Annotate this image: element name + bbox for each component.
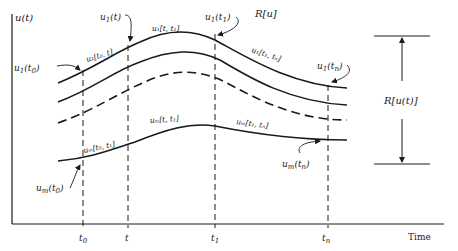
tick-label-t: t [125, 233, 129, 243]
label-u1-t1: u1(t1) [205, 12, 231, 24]
seg-label-um-t-t1: uₘ[t, t₁] [150, 114, 180, 125]
seg-label-u1-t-t1: u₁[t, t₁] [152, 24, 180, 33]
x-axis-label: Time [408, 232, 431, 242]
range-label: R[u(t)] [383, 95, 418, 106]
label-u1-t0: u1(t0) [14, 63, 40, 75]
curve-u2 [58, 52, 347, 105]
arrow-u1-t0 [57, 65, 80, 70]
trajectory-diagram: u(t) Time t0 t t1 tn u1(t0) u1(t) u1(t1)… [0, 0, 458, 251]
curve-u1 [58, 32, 347, 88]
tick-label-tn: tn [322, 233, 331, 245]
tick-label-t0: t0 [79, 233, 88, 245]
time-markers [83, 34, 328, 228]
tick-label-t1: t1 [211, 233, 219, 245]
region-label: R[u] [254, 8, 277, 19]
arrow-um-t0 [70, 165, 80, 188]
arrow-um-tn [299, 141, 320, 153]
y-axis-label: u(t) [15, 12, 33, 23]
arrow-u1-t [125, 15, 131, 41]
label-u1-t: u1(t) [100, 12, 121, 24]
label-u1-tn: u1(tn) [317, 61, 343, 73]
seg-label-um-t1-tn: uₘ[t₁, tₙ] [236, 117, 269, 130]
label-um-t0: um(t0) [36, 183, 64, 195]
seg-label-u1-t0-t: u₁[t₀, t] [85, 47, 114, 64]
label-um-tn: um(tn) [282, 159, 310, 171]
